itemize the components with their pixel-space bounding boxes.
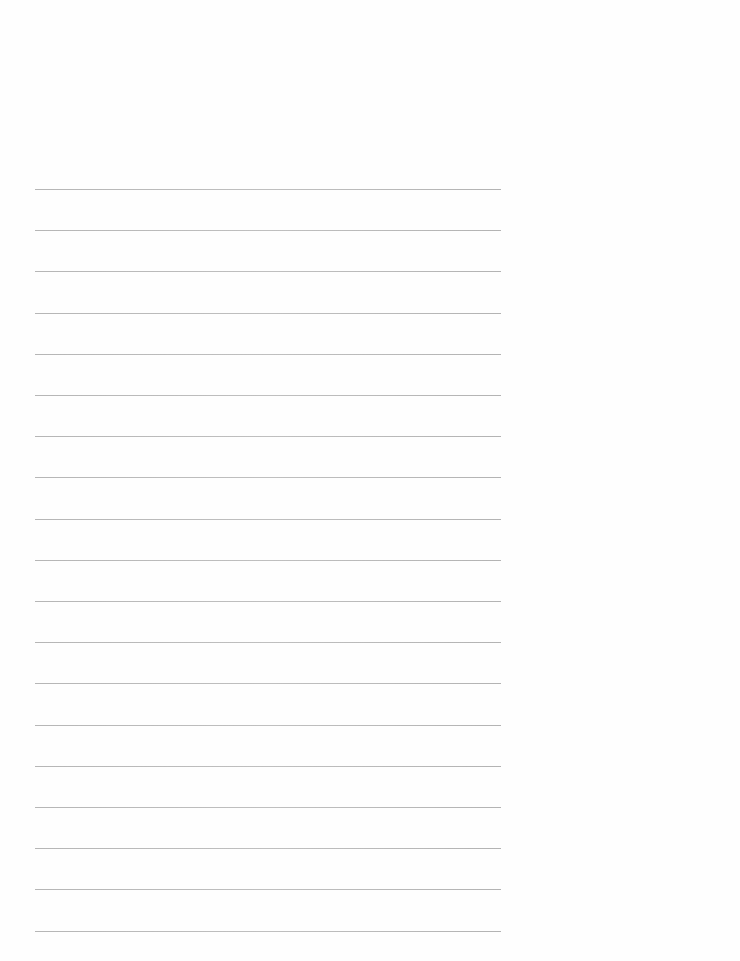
ruled-line	[35, 519, 501, 520]
lined-paper-page	[0, 0, 740, 961]
ruled-line	[35, 354, 501, 355]
ruled-line	[35, 230, 501, 231]
ruled-line	[35, 271, 501, 272]
ruled-line	[35, 395, 501, 396]
ruled-line	[35, 848, 501, 849]
ruled-line	[35, 477, 501, 478]
ruled-line	[35, 560, 501, 561]
ruled-line	[35, 601, 501, 602]
ruled-line	[35, 807, 501, 808]
ruled-line	[35, 683, 501, 684]
ruled-line	[35, 189, 501, 190]
ruled-line	[35, 766, 501, 767]
ruled-line	[35, 436, 501, 437]
ruled-line	[35, 313, 501, 314]
ruled-line	[35, 889, 501, 890]
ruled-line	[35, 931, 501, 932]
ruled-line	[35, 642, 501, 643]
ruled-line	[35, 725, 501, 726]
